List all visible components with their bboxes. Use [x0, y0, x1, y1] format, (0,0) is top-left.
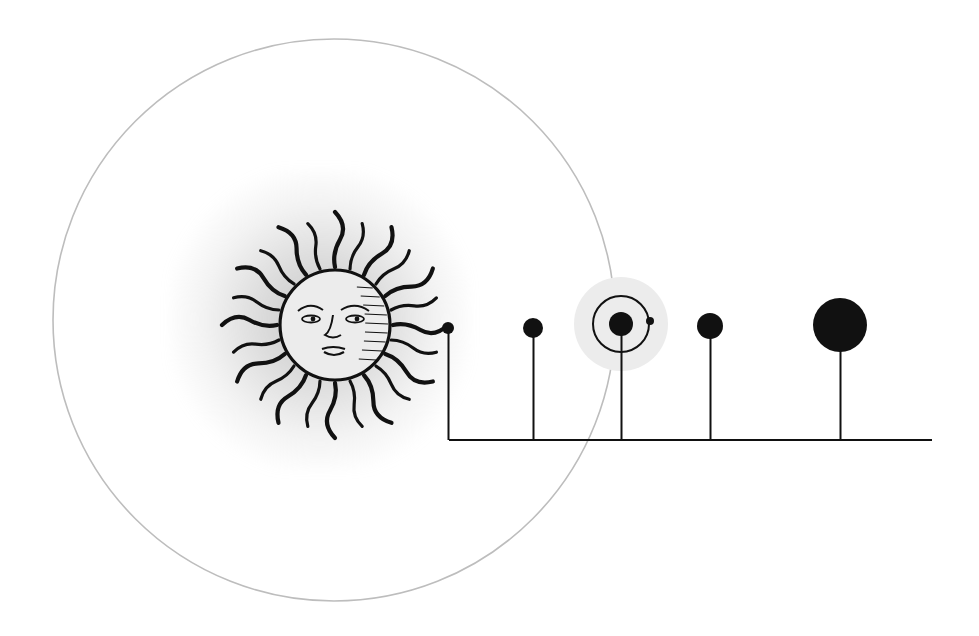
- diagram-canvas: [0, 0, 979, 636]
- sun-icon: [222, 212, 448, 438]
- sun-ray: [350, 224, 363, 269]
- moon-icon: [646, 317, 654, 325]
- sun-ray: [237, 267, 285, 296]
- sun-ray: [279, 227, 307, 275]
- sun-ray: [364, 227, 393, 275]
- sun-ray: [234, 297, 279, 310]
- sun-ray: [391, 340, 436, 353]
- venus-icon: [523, 318, 543, 338]
- sun-ray: [307, 381, 320, 426]
- solar-system-diagram: [0, 0, 979, 636]
- sun-ray: [391, 298, 436, 310]
- sun-ray: [364, 375, 392, 423]
- sun-pupil-left: [311, 317, 316, 322]
- sun-ray: [385, 269, 433, 297]
- sun-pupil-right: [355, 317, 360, 322]
- sun-ray: [308, 224, 320, 269]
- sun-ray: [350, 381, 362, 426]
- mars-icon: [697, 313, 723, 339]
- earth-icon: [609, 312, 633, 336]
- sun-ray: [393, 324, 448, 333]
- sun-ray: [334, 212, 343, 267]
- mercury-icon: [442, 322, 454, 334]
- sun-face: [280, 270, 390, 380]
- sun-ray: [234, 340, 279, 352]
- sun-ray: [327, 383, 336, 438]
- sun-ray: [237, 354, 285, 382]
- sun-ray: [222, 317, 277, 326]
- jupiter-icon: [813, 298, 867, 352]
- sun-ray: [277, 375, 306, 423]
- sun-ray: [385, 354, 433, 383]
